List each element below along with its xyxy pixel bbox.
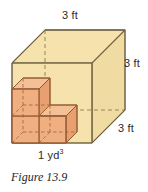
figure-container: 3 ft 3 ft 3 ft 1 yd3 Figure 13.9 bbox=[0, 0, 148, 192]
label-top-edge: 3 ft bbox=[62, 9, 78, 21]
label-volume-exponent: 3 bbox=[60, 148, 64, 155]
label-volume-value: 1 yd bbox=[38, 149, 60, 161]
cube-volume-diagram bbox=[0, 0, 148, 192]
unit-cube-bottom-left-front-face bbox=[12, 116, 39, 143]
figure-caption: Figure 13.9 bbox=[11, 170, 67, 185]
label-depth-edge: 3 ft bbox=[118, 122, 134, 134]
label-right-edge: 3 ft bbox=[124, 57, 140, 69]
unit-cube-upper-left-front-face bbox=[12, 89, 39, 116]
unit-cube-bottom-right-front-face bbox=[39, 116, 66, 143]
label-volume: 1 yd3 bbox=[38, 149, 64, 161]
